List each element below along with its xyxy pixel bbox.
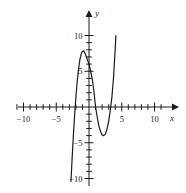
y-axis-arrow-icon [86, 10, 93, 17]
graph-figure: −10−5510 x 105−5−10 y [0, 0, 186, 193]
x-tick-label: 10 [150, 114, 159, 124]
y-tick-label: 10 [74, 31, 83, 41]
cubic-function-plot: −10−5510 x 105−5−10 y [0, 0, 186, 193]
x-axis-label: x [169, 113, 174, 123]
x-axis-arrow-icon [172, 104, 179, 111]
y-axis-label: y [94, 8, 99, 18]
x-tick-label: 5 [120, 114, 124, 124]
x-axis-tick-labels: −10−5510 [17, 114, 159, 124]
y-tick-label: −5 [73, 138, 82, 148]
x-tick-label: −5 [52, 114, 61, 124]
x-tick-label: −10 [17, 114, 30, 124]
